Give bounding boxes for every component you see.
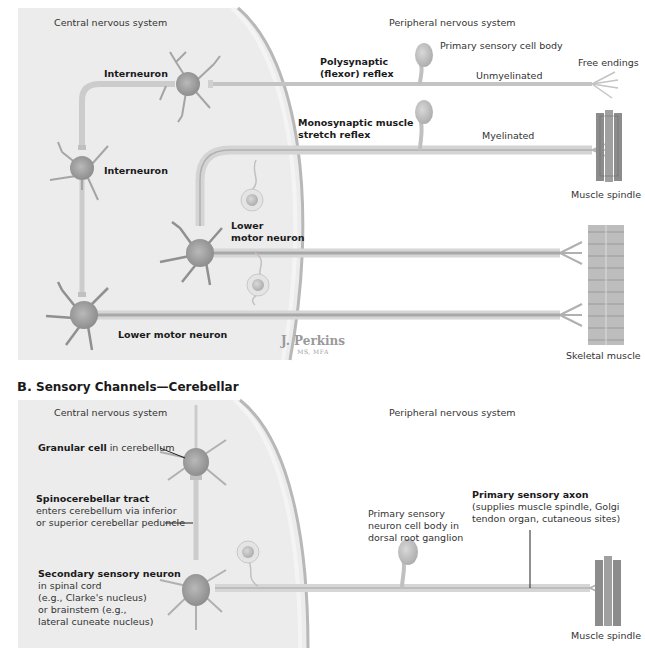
- label-spino-line2: or superior cerebellar peduncle: [36, 517, 185, 529]
- label-psn-line2: neuron cell body in: [368, 520, 459, 532]
- section-b-letter: B.: [17, 379, 32, 394]
- label-interneuron-top: Interneuron: [104, 68, 168, 80]
- label-lower-motor-neuron-1b: motor neuron: [231, 232, 304, 244]
- section-a-cns-region: [18, 8, 303, 360]
- label-skeletal-muscle: Skeletal muscle: [566, 350, 641, 362]
- label-psn-line1: Primary sensory: [368, 508, 445, 520]
- label-secondary-line2: (e.g., Clarke's nucleus): [38, 592, 147, 604]
- skeletal-muscle: [588, 225, 624, 345]
- primary-sensory-cell-body-b: [398, 539, 418, 588]
- label-secondary-line1: in spinal cord: [38, 580, 102, 592]
- diagram-artwork: [0, 0, 645, 654]
- label-polysynaptic-1: Polysynaptic: [320, 56, 388, 68]
- signature-credentials: MS, MFA: [278, 348, 348, 355]
- label-primary-sensory-cell-body: Primary sensory cell body: [440, 40, 563, 52]
- muscle-spindle-a: [596, 110, 622, 182]
- label-secondary-line3: or brainstem (e.g.,: [38, 604, 127, 616]
- pns-label-b: Peripheral nervous system: [389, 407, 516, 419]
- label-unmyelinated: Unmyelinated: [476, 70, 542, 82]
- label-lower-motor-neuron-2: Lower motor neuron: [118, 329, 227, 341]
- artist-signature: J. Perkins MS, MFA: [278, 334, 348, 355]
- granular-bold: Granular cell: [38, 442, 107, 453]
- label-axon-title: Primary sensory axon: [472, 489, 588, 501]
- label-lower-motor-neuron-1a: Lower: [231, 220, 264, 232]
- label-muscle-spindle-b: Muscle spindle: [571, 630, 641, 642]
- section-b-title: B. Sensory Channels—Cerebellar: [17, 379, 239, 394]
- section-b-title-text: Sensory Channels—Cerebellar: [36, 380, 239, 394]
- label-secondary-title: Secondary sensory neuron: [38, 568, 181, 580]
- label-myelinated: Myelinated: [482, 130, 534, 142]
- label-secondary-line4: lateral cuneate nucleus): [38, 616, 153, 628]
- primary-sensory-cell-body-a1: [415, 43, 433, 84]
- label-granular-cell: Granular cell in cerebellum: [38, 442, 174, 454]
- label-axon-line2: tendon organ, cutaneous sites): [472, 513, 620, 525]
- cns-label-b: Central nervous system: [54, 407, 167, 419]
- label-polysynaptic-2: (flexor) reflex: [320, 68, 394, 80]
- label-monosynaptic-1: Monosynaptic muscle: [298, 117, 413, 129]
- label-muscle-spindle-a: Muscle spindle: [571, 189, 641, 201]
- label-axon-line1: (supplies muscle spindle, Golgi: [472, 501, 619, 513]
- label-spino-title: Spinocerebellar tract: [36, 493, 149, 505]
- label-spino-line1: enters cerebellum via inferior: [36, 505, 177, 517]
- label-psn-line3: dorsal root ganglion: [368, 532, 463, 544]
- label-interneuron-left: Interneuron: [104, 165, 168, 177]
- label-free-endings: Free endings: [578, 57, 639, 69]
- signature-name: J. Perkins: [281, 334, 345, 348]
- muscle-spindle-b: [595, 556, 621, 626]
- label-monosynaptic-2: stretch reflex: [298, 129, 370, 141]
- primary-sensory-cell-body-a2: [415, 100, 433, 150]
- cns-label-a: Central nervous system: [54, 17, 167, 29]
- pns-label-a: Peripheral nervous system: [389, 17, 516, 29]
- granular-rest: in cerebellum: [107, 442, 175, 453]
